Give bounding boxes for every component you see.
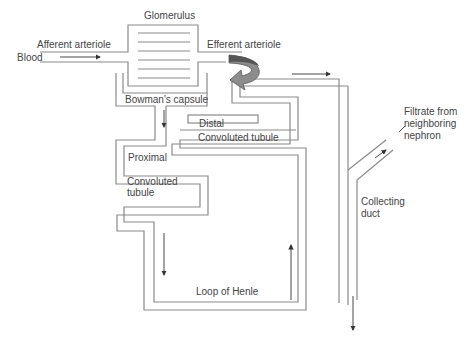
label-filtrate-neighboring: neighboring <box>404 118 456 129</box>
label-filtrate: Filtrate from <box>404 106 457 117</box>
glomerulus <box>40 25 242 86</box>
label-afferent-arteriole: Afferent arteriole <box>37 39 111 50</box>
label-distal: Distal <box>199 118 224 129</box>
label-collecting: Collecting <box>361 196 405 207</box>
label-filtrate-nephron: nephron <box>404 130 441 141</box>
label-proximal-convoluted: Convoluted <box>127 176 178 187</box>
label-proximal-tubule: tubule <box>127 187 154 198</box>
label-loop-of-henle: Loop of Henle <box>196 286 258 297</box>
curved-arrow-icon <box>229 55 259 90</box>
label-proximal: Proximal <box>128 152 167 163</box>
label-collecting-duct: duct <box>361 208 380 219</box>
label-glomerulus: Glomerulus <box>144 10 195 21</box>
label-efferent-arteriole: Efferent arteriole <box>207 39 281 50</box>
label-blood: Blood <box>17 52 43 63</box>
label-distal-convoluted: Convoluted tubule <box>198 132 279 143</box>
label-bowmans-capsule: Bowman's capsule <box>125 94 208 105</box>
